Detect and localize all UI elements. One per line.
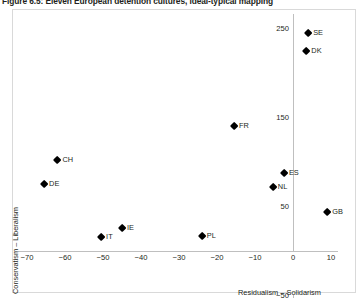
data-point-label: NL <box>278 182 287 191</box>
data-point-marker <box>323 208 332 217</box>
x-tick-label: −10 <box>240 253 270 262</box>
x-tick-label: −20 <box>202 253 232 262</box>
x-axis-line <box>18 251 338 252</box>
data-point-marker <box>279 169 288 178</box>
y-tick-mark <box>293 206 294 209</box>
y-tick-mark <box>293 117 294 120</box>
x-tick-label: 10 <box>316 253 346 262</box>
data-point-marker <box>53 155 62 164</box>
data-point-marker <box>230 121 239 130</box>
data-point-label: ES <box>289 168 299 177</box>
data-point-marker <box>40 179 49 188</box>
data-point-marker <box>197 232 206 241</box>
x-tick-label: −50 <box>88 253 118 262</box>
y-tick-label: 150 <box>265 113 289 122</box>
data-point-label: DE <box>49 179 59 188</box>
scatter-plot: 25015050−50 −70−60−50−40−30−20−10010 SED… <box>0 0 359 305</box>
data-point-marker <box>97 233 106 242</box>
y-tick-label: 50 <box>265 202 289 211</box>
y-axis-title: Conservatism – Liberalism <box>11 203 20 299</box>
x-tick-label: 0 <box>278 253 308 262</box>
y-tick-label: 250 <box>265 24 289 33</box>
x-tick-label: −40 <box>126 253 156 262</box>
data-point-label: PL <box>207 231 216 240</box>
data-point-marker <box>268 183 277 192</box>
x-tick-label: −30 <box>164 253 194 262</box>
y-tick-mark <box>293 28 294 31</box>
data-point-label: DK <box>311 46 321 55</box>
data-point-label: CH <box>62 155 73 164</box>
x-axis-title: Residualism – Solidarism <box>238 288 321 297</box>
data-point-marker <box>304 29 313 38</box>
x-tick-label: −60 <box>50 253 80 262</box>
y-axis-line <box>293 14 294 252</box>
data-point-label: IE <box>127 223 134 232</box>
data-point-label: SE <box>313 28 323 37</box>
data-point-label: GB <box>332 207 343 216</box>
data-point-label: IT <box>106 232 113 241</box>
data-point-label: FR <box>239 121 249 130</box>
data-point-marker <box>302 47 311 56</box>
data-point-marker <box>117 224 126 233</box>
